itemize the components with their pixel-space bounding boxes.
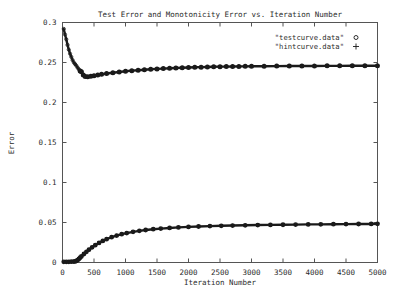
x-tick-label: 2000 bbox=[179, 268, 198, 277]
chart-title: Test Error and Monotonicity Error vs. It… bbox=[98, 10, 342, 19]
axis-titles: Iteration Number Error bbox=[7, 131, 257, 287]
y-tick-label: 0.2 bbox=[43, 98, 57, 107]
y-tick-label: 0.1 bbox=[43, 178, 57, 187]
x-tick-label: 5000 bbox=[368, 268, 387, 277]
x-tick-label: 500 bbox=[87, 268, 101, 277]
x-tick-label: 1000 bbox=[116, 268, 135, 277]
x-axis-label: Iteration Number bbox=[184, 278, 257, 287]
series-path bbox=[64, 224, 378, 262]
chart-legend: "testcurve.data""hintcurve.data" bbox=[275, 33, 359, 51]
legend-label-2: "hintcurve.data" bbox=[275, 42, 344, 51]
x-tick-label: 0 bbox=[60, 268, 65, 277]
x-tick-label: 4000 bbox=[305, 268, 324, 277]
data-series-group bbox=[62, 27, 379, 263]
x-tick-label: 4500 bbox=[337, 268, 356, 277]
y-tick-label: 0.3 bbox=[43, 18, 57, 27]
legend-label-1: "testcurve.data" bbox=[275, 33, 344, 42]
legend-marker-circle-icon bbox=[354, 36, 358, 40]
y-tick-label: 0 bbox=[52, 258, 57, 267]
chart-canvas: Test Error and Monotonicity Error vs. It… bbox=[0, 0, 401, 296]
x-tick-label: 2500 bbox=[211, 268, 230, 277]
legend-marker-plus-icon bbox=[353, 44, 359, 50]
chart-container: Test Error and Monotonicity Error vs. It… bbox=[0, 0, 401, 296]
series-2 bbox=[62, 222, 379, 263]
x-tick-label: 3500 bbox=[274, 268, 293, 277]
chart-title-group: Test Error and Monotonicity Error vs. It… bbox=[98, 10, 342, 19]
x-tick-label: 3000 bbox=[242, 268, 261, 277]
y-tick-label: 0.05 bbox=[38, 218, 56, 227]
y-axis-label: Error bbox=[7, 131, 16, 154]
y-tick-label: 0.25 bbox=[38, 58, 56, 67]
x-tick-label: 1500 bbox=[148, 268, 167, 277]
y-axis-ticks: 00.050.10.150.20.250.3 bbox=[38, 18, 377, 267]
y-tick-label: 0.15 bbox=[38, 138, 56, 147]
